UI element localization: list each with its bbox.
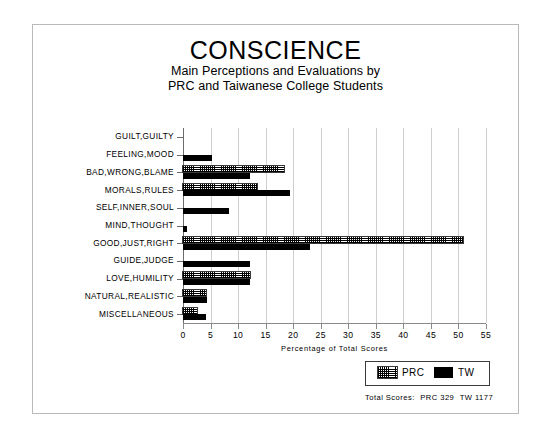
bar-tw-5 [183,226,187,232]
chart-subtitle-line-2: PRC and Taiwanese College Students [32,79,519,94]
category-axis-labels: GUILT,GUILTYFEELING,MOODBAD,WRONG,BLAMEM… [44,128,174,323]
bar-series-group [183,128,486,323]
bar-prc-8 [183,272,250,278]
bar-prc-6 [183,237,463,243]
page-title: CONSCIENCE [32,36,519,64]
x-tick-label-10: 10 [233,330,243,340]
x-tick-label-50: 50 [453,330,463,340]
x-tick-label-20: 20 [288,330,298,340]
category-label-10: MISCELLANEOUS [44,310,174,319]
x-tick-mark-25 [321,324,322,329]
x-tick-label-0: 0 [180,330,185,340]
legend-entry-tw: TW [434,367,474,378]
category-label-5: MIND,THOUGHT [44,221,174,230]
x-tick-label-25: 25 [316,330,326,340]
bar-tw-2 [183,173,250,179]
bar-row [183,252,486,270]
bar-row [183,181,486,199]
x-tick-mark-30 [348,324,349,329]
bar-prc-10 [183,308,197,314]
x-axis-tick-labels: 0510152025303540455055 [183,330,486,342]
legend: PRC TW [365,361,490,386]
category-label-0: GUILT,GUILTY [44,132,174,141]
chart-figure: CONSCIENCE Main Perceptions and Evaluati… [32,24,519,414]
bar-prc-9 [183,290,206,296]
x-axis-title: Percentage of Total Scores [183,344,486,353]
category-label-8: LOVE,HUMILITY [44,274,174,283]
x-tick-mark-45 [431,324,432,329]
x-tick-mark-35 [376,324,377,329]
plot-area [183,128,486,323]
bar-row [183,217,486,235]
legend-entry-prc: PRC [378,367,424,378]
x-tick-mark-10 [238,324,239,329]
x-axis-ticks [183,324,486,329]
bar-row [183,199,486,217]
category-label-9: NATURAL,REALISTIC [44,292,174,301]
bar-tw-4 [183,208,229,214]
category-label-3: MORALS,RULES [44,186,174,195]
x-tick-mark-15 [266,324,267,329]
category-label-4: SELF,INNER,SOUL [44,203,174,212]
bar-row [183,146,486,164]
bar-row [183,270,486,288]
x-tick-mark-40 [403,324,404,329]
gridline-55 [486,128,487,323]
title-block: CONSCIENCE Main Perceptions and Evaluati… [32,36,519,94]
category-label-6: GOOD,JUST,RIGHT [44,239,174,248]
totals-tw: TW 1177 [460,393,493,402]
legend-swatch-prc-icon [378,367,397,378]
x-tick-mark-20 [293,324,294,329]
totals-label: Total Scores: [365,393,415,402]
legend-label-prc: PRC [402,367,424,378]
chart-subtitle-line-1: Main Perceptions and Evaluations by [32,64,519,79]
totals-note: Total Scores: PRC 329 TW 1177 [365,393,495,402]
totals-prc: PRC 329 [420,393,454,402]
bar-tw-9 [183,297,207,303]
x-tick-mark-50 [458,324,459,329]
x-tick-mark-0 [183,324,184,329]
category-label-1: FEELING,MOOD [44,150,174,159]
category-label-7: GUIDE,JUDGE [44,256,174,265]
bar-row [183,234,486,252]
bar-tw-8 [183,279,250,285]
bar-row [183,163,486,181]
x-tick-label-15: 15 [260,330,270,340]
bar-tw-1 [183,155,212,161]
bar-prc-2 [183,166,284,172]
x-tick-label-45: 45 [426,330,436,340]
bar-tw-3 [183,190,290,196]
x-tick-label-30: 30 [343,330,353,340]
legend-label-tw: TW [458,367,474,378]
x-tick-label-55: 55 [481,330,491,340]
bar-row [183,128,486,146]
bar-row [183,305,486,323]
bar-tw-6 [183,244,310,250]
bar-prc-3 [183,184,257,190]
x-tick-mark-55 [486,324,487,329]
x-tick-label-40: 40 [398,330,408,340]
category-label-2: BAD,WRONG,BLAME [44,168,174,177]
bar-row [183,288,486,306]
bar-tw-7 [183,261,250,267]
x-tick-mark-5 [211,324,212,329]
x-tick-label-5: 5 [208,330,213,340]
bar-tw-10 [183,314,206,320]
legend-swatch-tw-icon [434,367,453,378]
x-tick-label-35: 35 [371,330,381,340]
